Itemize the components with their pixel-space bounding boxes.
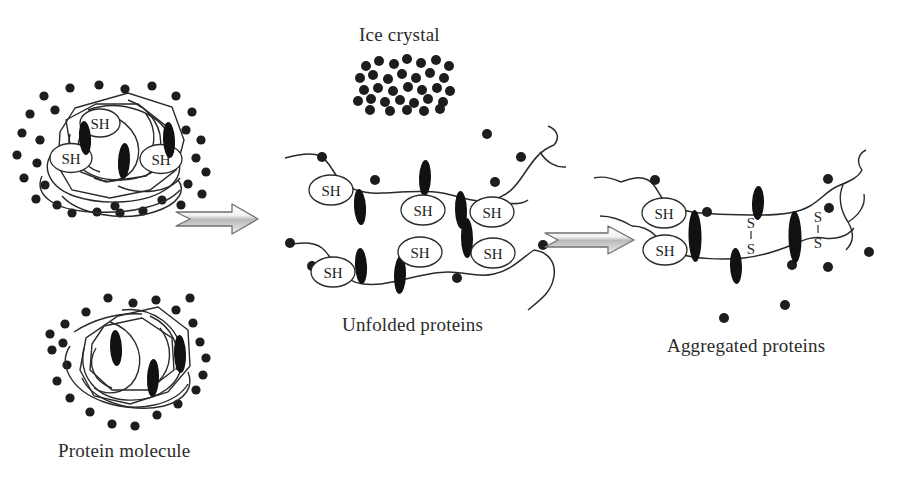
svg-text:SH: SH <box>483 246 502 262</box>
unfolded-chain-upper-tails <box>540 126 566 167</box>
svg-text:SH: SH <box>655 243 674 259</box>
aggregated-sh-groups: SH SH <box>642 198 687 265</box>
aggregated-proteins-label: Aggregated proteins <box>667 335 825 357</box>
aggregated-chain-left-tails <box>594 177 632 226</box>
disulfide-bond-1: S S <box>747 215 755 257</box>
ice-crystal-label: Ice crystal <box>359 24 440 46</box>
sh-ellipse: SH <box>470 197 514 227</box>
protein-aggregation-diagram: SH SH SH <box>0 0 907 477</box>
aggregated-proteins: SH SH S S S S <box>594 150 874 323</box>
sh-ellipse: SH <box>643 235 687 265</box>
svg-text:SH: SH <box>61 151 80 167</box>
svg-text:SH: SH <box>323 265 342 281</box>
native-protein-2-hydrophobic-patches <box>109 330 187 397</box>
disulfide-s-bottom: S <box>814 235 822 251</box>
arrow-2 <box>545 226 634 254</box>
aggregated-hydrophobic-patches <box>688 186 802 284</box>
unfolded-proteins: SH SH SH SH SH <box>285 126 566 310</box>
disulfide-bond-2: S S <box>814 209 822 251</box>
unfolded-proteins-label: Unfolded proteins <box>342 314 483 336</box>
disulfide-s-top: S <box>814 209 822 225</box>
arrow-1 <box>176 204 258 234</box>
native-protein-1: SH SH SH <box>12 80 210 217</box>
svg-text:SH: SH <box>410 245 429 261</box>
sh-ellipse: SH <box>309 175 353 205</box>
sh-ellipse: SH <box>642 198 686 228</box>
svg-text:SH: SH <box>90 116 109 132</box>
svg-text:SH: SH <box>482 205 501 221</box>
sh-ellipse: SH <box>140 145 182 174</box>
disulfide-s-bottom: S <box>747 241 755 257</box>
sh-ellipse: SH <box>401 195 445 225</box>
diagram-canvas: SH SH SH <box>0 0 907 477</box>
ice-crystal-dots <box>353 54 455 116</box>
svg-text:SH: SH <box>413 203 432 219</box>
sh-ellipse: SH <box>311 257 355 287</box>
sh-ellipse: SH <box>471 238 515 268</box>
svg-text:SH: SH <box>321 183 340 199</box>
disulfide-s-top: S <box>747 215 755 231</box>
sh-ellipse: SH <box>398 237 442 267</box>
protein-molecule-label: Protein molecule <box>58 440 190 462</box>
native-protein-2 <box>45 293 210 430</box>
svg-text:SH: SH <box>654 206 673 222</box>
native-protein-2-chain <box>65 307 190 408</box>
